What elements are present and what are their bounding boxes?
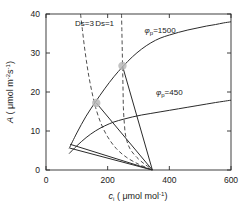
curve-annotations: φp=1500φp=450Ds=3Ds=1 xyxy=(75,19,183,98)
op-point-high xyxy=(118,62,126,70)
data-curve-assimilation-demand-curve xyxy=(69,22,231,149)
data-curve-assimilation-demand-curve xyxy=(69,100,231,153)
x-tick-label: 200 xyxy=(101,175,115,185)
annotation-phi_p=1500: φp=1500 xyxy=(145,26,177,36)
y-tick-label: 40 xyxy=(31,9,41,19)
annotation-Ds=3: Ds=3 xyxy=(75,19,94,28)
supply-line-1 xyxy=(96,103,152,170)
axes-frame xyxy=(46,14,231,170)
y-axis-tick-labels: 010203040 xyxy=(31,9,41,175)
x-tick-label: 600 xyxy=(224,175,238,185)
supply-function-curves xyxy=(81,14,153,170)
supply-line-3 xyxy=(70,144,152,170)
y-axis-ticks xyxy=(46,14,231,170)
operating-point-markers xyxy=(92,62,127,107)
plot-border xyxy=(46,14,231,170)
x-axis-ticks xyxy=(46,14,231,170)
chart-figure: 0200400600 010203040 φp=1500φp=450Ds=3Ds… xyxy=(0,0,248,215)
y-axis-title: A ( μmol m-2s-1) xyxy=(5,61,15,124)
chart-plot-area: 0200400600 010203040 φp=1500φp=450Ds=3Ds… xyxy=(0,0,248,215)
y-tick-label: 0 xyxy=(35,165,40,175)
x-tick-label: 400 xyxy=(162,175,176,185)
x-axis-tick-labels: 0200400600 xyxy=(44,175,239,185)
data-curve-supply-function xyxy=(81,14,153,170)
x-tick-label: 0 xyxy=(44,175,49,185)
op-point-low xyxy=(92,99,100,107)
y-tick-label: 30 xyxy=(31,48,41,58)
data-curve-supply-function xyxy=(122,14,153,170)
annotation-phi_p=450: φp=450 xyxy=(156,88,183,98)
x-axis-title: ci ( μmol mol-1) xyxy=(109,191,168,202)
assimilation-demand-curves xyxy=(69,22,231,154)
supply-lines-group xyxy=(70,66,152,170)
y-tick-label: 20 xyxy=(31,87,41,97)
supply-line-4 xyxy=(70,148,152,170)
annotation-Ds=1: Ds=1 xyxy=(95,19,114,28)
y-tick-label: 10 xyxy=(31,126,41,136)
